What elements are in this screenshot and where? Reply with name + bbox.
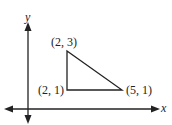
vertex-label-left: (2, 1) <box>38 83 64 98</box>
vertex-label-top: (2, 3) <box>51 35 77 50</box>
vertex-label-right: (5, 1) <box>126 83 152 98</box>
x-axis-label: x <box>161 101 166 116</box>
x-axis-right-arrow-icon <box>151 106 160 113</box>
y-axis-down-arrow-icon <box>25 115 32 124</box>
triangle <box>67 51 122 90</box>
y-axis-label: y <box>25 10 30 25</box>
x-axis-left-arrow-icon <box>4 106 13 113</box>
